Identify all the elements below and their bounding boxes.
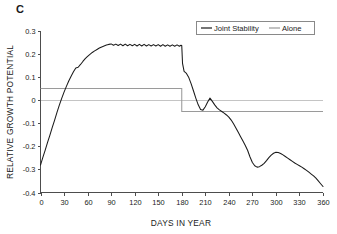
x-tick-label: 180 <box>176 198 188 207</box>
x-tick-label: 210 <box>199 198 211 207</box>
y-axis-title: RELATIVE GROWTH POTENTIAL <box>5 45 15 179</box>
x-tick-label: 120 <box>129 198 141 207</box>
y-tick-label: -0.3 <box>23 165 36 174</box>
y-tick-label: -0.4 <box>23 189 36 198</box>
x-tick-label: 150 <box>152 198 164 207</box>
y-axis-ticks: 0.30.20.10-0.1-0.2-0.3-0.4 <box>23 27 41 198</box>
y-tick-label: -0.1 <box>23 119 36 128</box>
relative-growth-potential-chart: 0.30.20.10-0.1-0.2-0.3-0.4 0306090120150… <box>0 0 337 234</box>
x-tick-label: 60 <box>84 198 92 207</box>
x-tick-label: 30 <box>60 198 68 207</box>
x-axis-title: DAYS IN YEAR <box>151 218 211 228</box>
x-axis-ticks: 0306090120150180210240270300330360 <box>39 193 329 207</box>
x-tick-label: 90 <box>107 198 115 207</box>
y-tick-label: 0.1 <box>25 73 35 82</box>
x-tick-label: 300 <box>270 198 282 207</box>
y-tick-label: -0.2 <box>23 142 36 151</box>
x-tick-label: 240 <box>223 198 235 207</box>
y-tick-label: 0.3 <box>25 27 35 36</box>
figure-panel-c: C 0.30.20.10-0.1-0.2-0.3-0.4 03060901201… <box>0 0 337 234</box>
x-tick-label: 0 <box>39 198 43 207</box>
legend-label-alone: Alone <box>282 24 301 33</box>
x-tick-label: 330 <box>293 198 305 207</box>
y-tick-label: 0.2 <box>25 50 35 59</box>
legend-label-joint-stability: Joint Stability <box>214 24 259 33</box>
x-tick-label: 360 <box>317 198 329 207</box>
x-tick-label: 270 <box>246 198 258 207</box>
chart-legend: Joint Stability Alone <box>197 22 315 35</box>
y-tick-label: 0 <box>31 96 35 105</box>
